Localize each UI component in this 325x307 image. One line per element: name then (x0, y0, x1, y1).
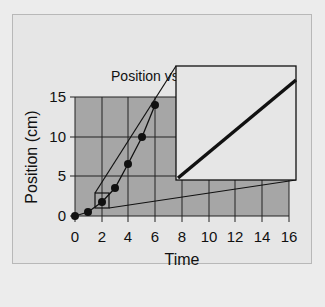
y-axis-label: Position (cm) (23, 110, 40, 203)
svg-text:0: 0 (58, 207, 66, 224)
data-point (124, 160, 132, 168)
x-axis-label: Time (165, 251, 200, 268)
svg-text:0: 0 (71, 228, 79, 245)
data-point (71, 212, 79, 220)
svg-text:8: 8 (178, 228, 186, 245)
data-point (111, 184, 119, 192)
svg-text:10: 10 (201, 228, 218, 245)
data-point (151, 101, 159, 109)
svg-text:4: 4 (124, 228, 132, 245)
y-tick-labels: 15 10 5 0 (49, 88, 66, 224)
svg-text:6: 6 (151, 228, 159, 245)
svg-text:10: 10 (49, 128, 66, 145)
svg-text:12: 12 (227, 228, 244, 245)
data-point (84, 208, 92, 216)
data-point (98, 198, 106, 206)
svg-text:14: 14 (254, 228, 271, 245)
data-point (138, 133, 146, 141)
svg-text:16: 16 (281, 228, 298, 245)
x-tick-labels: 0 2 4 6 8 10 12 14 16 (71, 228, 298, 245)
svg-text:2: 2 (98, 228, 106, 245)
svg-text:5: 5 (58, 167, 66, 184)
svg-text:15: 15 (49, 88, 66, 105)
chart-svg: Position vs. time 15 10 5 0 0 2 4 6 8 10… (0, 0, 325, 307)
